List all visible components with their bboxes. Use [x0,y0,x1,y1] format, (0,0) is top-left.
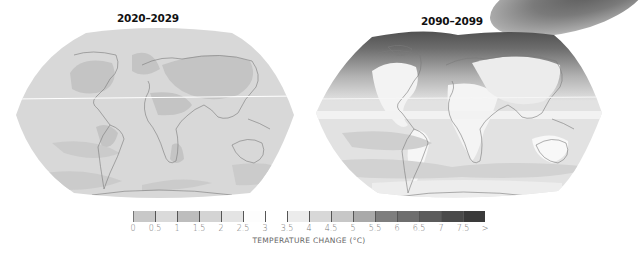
legend-swatch-0.5 [156,211,178,222]
legend-swatch-7.5 [464,211,485,222]
legend-tick: 6.5 [413,224,426,233]
legend-tick: 3.5 [281,224,294,233]
legend-tick: 6 [394,224,399,233]
legend-swatch-1.5 [200,211,222,222]
legend-swatch-7 [442,211,464,222]
legend-tick: 7.5 [457,224,470,233]
legend-swatch-3.5 [288,211,310,222]
legend-tick: 4 [306,224,311,233]
map-title-2090: 2090–2099 [421,15,483,27]
legend-title: TEMPERATURE CHANGE (°C) [133,236,485,245]
legend-swatch-2.5 [244,211,266,222]
world-map-2020-2029 [12,25,300,203]
legend-tick: 5.5 [369,224,382,233]
legend-tick: 0.5 [149,224,162,233]
legend-swatch-2 [222,211,244,222]
temperature-color-scale [133,211,485,222]
legend-swatch-5.5 [376,211,398,222]
legend-swatch-4.5 [332,211,354,222]
legend-tick: 1 [174,224,179,233]
legend-swatch-6.5 [420,211,442,222]
legend-swatch-1 [178,211,200,222]
legend-tick: 4.5 [325,224,338,233]
legend-tick: 7 [438,224,443,233]
legend-tick: 3 [262,224,267,233]
legend-tick: 5 [350,224,355,233]
legend-swatch-6 [398,211,420,222]
legend-swatch-4 [310,211,332,222]
legend-tick: > [482,224,489,233]
legend-tick: 2 [218,224,223,233]
legend-tick: 1.5 [193,224,206,233]
legend-tick: 2.5 [237,224,250,233]
legend-tick: 0 [130,224,135,233]
legend-swatch-0 [133,211,156,222]
map-title-2020: 2020–2029 [117,12,179,24]
legend-tick-labels: 0 0.5 1 1.5 2 2.5 3 3.5 4 4.5 5 5.5 6 6.… [133,224,485,236]
world-map-2090-2099 [312,27,606,203]
legend-swatch-5 [354,211,376,222]
legend-swatch-3 [266,211,288,222]
